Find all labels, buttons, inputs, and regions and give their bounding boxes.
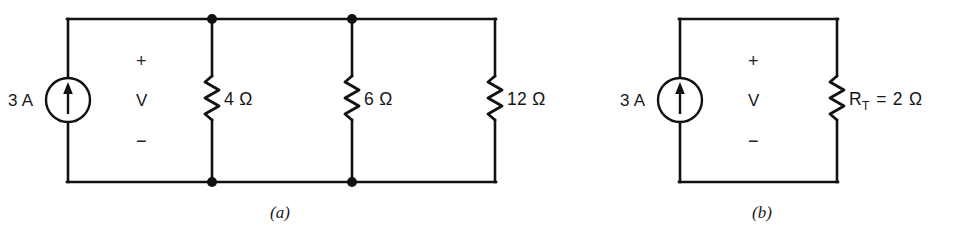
voltage-a-plus-sign: + — [136, 52, 147, 70]
resistor-rt-label: RT=2Ω — [849, 91, 922, 112]
resistor-12ohm-label: 12 Ω — [507, 91, 546, 109]
voltage-b-label: V — [748, 92, 760, 109]
voltage-b-plus-sign: + — [748, 52, 759, 70]
voltage-a-minus-sign: − — [136, 132, 147, 150]
source-a-label: 3 A — [8, 92, 33, 109]
caption-b: (b) — [752, 204, 772, 221]
resistor-rt-equals: = — [876, 89, 887, 109]
resistor-rt-symbol: R — [849, 89, 862, 109]
resistor-4ohm-zigzag — [205, 76, 219, 120]
resistor-rt-subscript: T — [862, 99, 869, 113]
caption-a: (a) — [270, 204, 290, 221]
resistor-rt-value: 2 — [893, 89, 903, 109]
voltage-a-label: V — [136, 92, 148, 109]
circuit-figure: 3 A + V − 4 Ω 6 Ω 12 Ω (a) 3 A + V − RT=… — [0, 0, 953, 233]
resistor-4ohm-label: 4 Ω — [224, 91, 253, 109]
resistor-12ohm-zigzag — [488, 76, 502, 120]
resistor-rt-unit: Ω — [909, 89, 922, 109]
resistor-rt-zigzag — [830, 76, 844, 120]
source-b-label: 3 A — [620, 92, 645, 109]
circuit-a-group — [46, 14, 502, 187]
circuit-drawing — [0, 0, 953, 233]
voltage-b-minus-sign: − — [748, 132, 759, 150]
resistor-6ohm-zigzag — [345, 76, 359, 120]
resistor-6ohm-label: 6 Ω — [364, 91, 393, 109]
